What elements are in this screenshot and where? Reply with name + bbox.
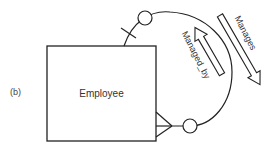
optional-circle-bottom [183,119,197,133]
entity-name-employee: Employee [47,88,156,99]
figure-part-label: (b) [10,87,21,97]
er-diagram-canvas [0,0,274,152]
crows-foot-many [156,112,172,137]
optional-circle-top [138,11,152,25]
